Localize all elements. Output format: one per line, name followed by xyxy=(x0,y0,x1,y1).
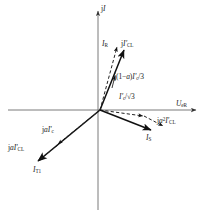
label-vector-IT1: IT1 xyxy=(33,166,41,174)
diagram-canvas xyxy=(0,0,206,217)
phasor-diagram-figure: jI UeR IR jI'CL j(1−a)I'c/3 I'c/√3 IS ja… xyxy=(0,0,206,217)
label-vertical-axis: jI xyxy=(101,5,105,13)
label-horizontal-axis: UeR xyxy=(176,100,187,108)
label-vector-IR: IR xyxy=(102,40,108,48)
label-vector-jICL: jI'CL xyxy=(121,40,133,48)
label-vector-IS: IS xyxy=(146,134,151,142)
label-vector-ja2ICL: ja2I'CL xyxy=(157,117,175,125)
label-vector-Ic-over-sqrt3: I'c/√3 xyxy=(119,93,135,101)
label-vector-jaIc: jaI'c xyxy=(42,126,54,134)
label-vector-j1aIc3: j(1−a)I'c/3 xyxy=(114,73,144,81)
vector-IS xyxy=(100,110,151,130)
label-vector-jaICL: jaI'CL xyxy=(8,144,24,152)
